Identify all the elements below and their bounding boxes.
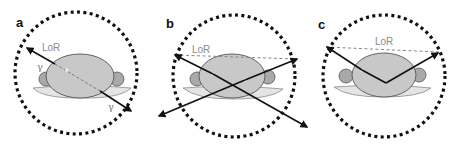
photon-arrow-unscattered: [327, 47, 362, 70]
patient-body: [352, 53, 416, 97]
line-of-response: [326, 47, 439, 52]
panel-a: a LoR γ γ: [15, 12, 137, 134]
panel-b: b LoR: [159, 15, 307, 137]
pet-coincidence-diagram: a LoR γ γ b: [0, 0, 465, 145]
annihilation-point: [65, 68, 69, 72]
gamma-label-1: γ: [37, 61, 43, 72]
lor-label-c: LoR: [375, 36, 393, 47]
gamma-label-2: γ: [108, 101, 114, 112]
lor-label-a: LoR: [42, 42, 60, 53]
patient-arm-left: [339, 69, 353, 83]
patient-body: [46, 54, 114, 98]
panel-label-c: c: [318, 17, 325, 32]
lor-label-b: LoR: [192, 44, 210, 55]
panel-c: c LoR: [318, 15, 445, 137]
panel-label-b: b: [166, 16, 174, 31]
panel-label-a: a: [16, 15, 24, 30]
